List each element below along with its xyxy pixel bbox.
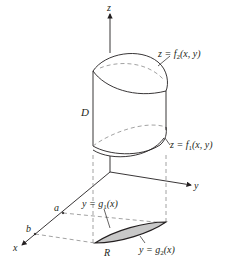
solid-label: D bbox=[80, 106, 89, 118]
region-r bbox=[95, 222, 166, 243]
y-axis bbox=[110, 172, 191, 185]
region-label: R bbox=[103, 247, 110, 258]
top-surface-f2 bbox=[93, 53, 167, 93]
leader-lines bbox=[104, 56, 170, 243]
bottom-surface-label: z = f1(x, y) bbox=[169, 139, 213, 152]
bottom-surface-f1 bbox=[93, 125, 166, 157]
lower-curve-label: y = g1(x) bbox=[81, 198, 118, 211]
top-surface-label: z = f2(x, y) bbox=[157, 48, 201, 61]
upper-curve-label: y = g2(x) bbox=[138, 244, 175, 257]
z-axis-label: z bbox=[106, 2, 111, 13]
x-tick-a: a bbox=[54, 202, 59, 213]
x-tick-b: b bbox=[26, 223, 31, 234]
y-axis-label: y bbox=[193, 180, 199, 191]
x-axis-label: x bbox=[12, 242, 18, 253]
solid-region-diagram: z y x z = f2(x, y) z = f1(x, y) D R y = … bbox=[0, 0, 231, 267]
